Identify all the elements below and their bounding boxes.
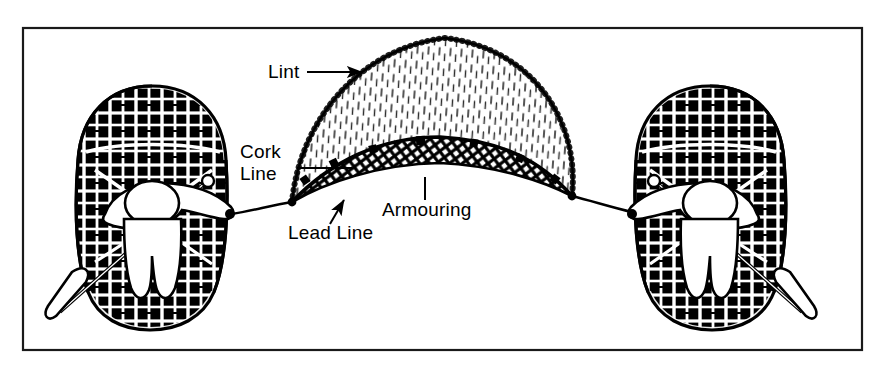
figure-root: Lint Cork Line Lead Line Armouring <box>0 0 886 369</box>
coracle-net-illustration: Lint Cork Line Lead Line Armouring <box>0 0 886 369</box>
coracle-left-paddle-grip <box>202 175 214 187</box>
label-lead-line: Lead Line <box>288 222 373 243</box>
coracle-right-paddle-grip <box>648 175 660 187</box>
coracle-left-rope-knot <box>225 209 235 219</box>
label-cork-line-row1: Cork <box>240 141 281 162</box>
coracle-right-rope-knot <box>627 209 637 219</box>
label-lint: Lint <box>268 61 300 82</box>
label-armouring: Armouring <box>382 199 471 220</box>
label-cork-line-row2: Line <box>240 163 277 184</box>
